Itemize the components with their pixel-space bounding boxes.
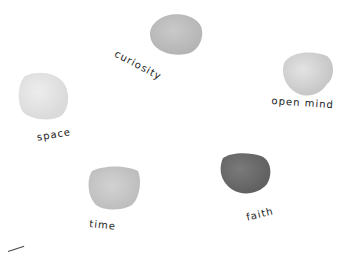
label-faith: faith (245, 205, 275, 222)
stone-open-mind (281, 50, 335, 98)
stone-faith (217, 152, 273, 196)
stone-time (86, 165, 142, 211)
label-space: space (36, 126, 72, 143)
label-time: time (89, 218, 117, 232)
stone-curiosity (148, 12, 206, 56)
stone-space (17, 70, 71, 122)
pencil-stroke (8, 246, 24, 252)
